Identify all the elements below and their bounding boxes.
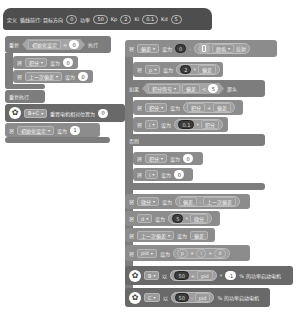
integral-sign-dropdown[interactable]: 积分符号▾: [148, 84, 180, 93]
motor-port-dropdown[interactable]: B+C▾: [24, 109, 47, 118]
param-power-label: 功率: [80, 16, 90, 23]
var-init-setting[interactable]: 初始化设定: [28, 40, 61, 49]
var-last-error-dropdown[interactable]: 上一次偏差▾: [25, 72, 62, 81]
set-integral-block[interactable]: 将 积分▾ 设为 0: [13, 56, 78, 69]
error-var-reporter[interactable]: 偏差: [198, 65, 216, 74]
condition[interactable]: 初始化设定 = 0: [22, 39, 85, 50]
param-ki-label: Ki: [134, 16, 139, 22]
if-footer: [125, 183, 265, 190]
repeat-until-block[interactable]: 重复 初始化设定 = 0 执行: [5, 36, 111, 53]
param-kp[interactable]: 2: [120, 15, 131, 24]
set-p-block[interactable]: 将 p▾ 设为 2 * 偏差: [133, 62, 223, 77]
sum-reporter[interactable]: p + i + d: [173, 248, 230, 259]
set-d-block[interactable]: 将 d▾ 设为 5 * 微分: [125, 211, 220, 226]
var-error-dropdown[interactable]: 偏差▾: [137, 44, 159, 53]
var-p-dropdown[interactable]: p▾: [145, 65, 160, 74]
param-ki[interactable]: 0.1: [142, 15, 158, 24]
define-name: 循线前行: 目标方向: [20, 16, 63, 23]
param-kd[interactable]: 5: [171, 15, 182, 24]
execute-label: 执行: [88, 41, 98, 48]
start-motor-b-block[interactable]: ✿ B▾ 以 50 + pid * -1 % 的功率启动电机: [125, 266, 293, 285]
set-last-error-to-error-block[interactable]: 将 上一次偏差▾ 设为 偏差: [125, 228, 215, 242]
set-init-setting-block[interactable]: 将 初始化设定▾ 设为 1: [5, 123, 100, 137]
multiply-reporter[interactable]: 2 * 偏差: [176, 64, 220, 75]
var-init-setting-dropdown[interactable]: 初始化设定▾: [17, 126, 54, 135]
param-kp-label: Kp: [111, 16, 117, 22]
reset-integral-block[interactable]: 将 积分▾ 设为 0: [133, 152, 203, 165]
param-kd-label: Kd: [161, 16, 167, 22]
set-error-block[interactable]: 将 偏差▾ 设为 0 - 颜色▾ 反射: [125, 40, 277, 57]
subtract-reporter[interactable]: 偏差 - 上一次偏差: [175, 196, 240, 207]
multiply-reporter[interactable]: 5 * 微分: [168, 213, 212, 224]
start-motor-c-block[interactable]: ✿ C▾ 以 50 - pid % 的功率启动电机: [125, 288, 270, 307]
if-condition[interactable]: 积分符号▾ 偏差 < 5: [142, 83, 224, 94]
if-block[interactable]: 如果 积分符号▾ 偏差 < 5 那么: [125, 80, 265, 97]
motor-c-port-dropdown[interactable]: C▾: [144, 293, 160, 302]
param-direction[interactable]: 0: [66, 15, 77, 24]
repeat-until-body: [5, 53, 13, 86]
set-pid-block[interactable]: 将 pid▾ 设为 p + i + d: [125, 245, 250, 261]
add-reporter[interactable]: 积分 + 偏差: [183, 102, 235, 113]
reset-i-block[interactable]: 将 i▾ 设为 0: [133, 168, 193, 181]
forever-block[interactable]: 重复执行: [5, 90, 45, 103]
multiply-reporter[interactable]: 0.1 * 积分: [174, 119, 222, 130]
repeat-until-footer: [5, 84, 45, 89]
repeat-keyword: 重复: [9, 41, 19, 48]
set-last-error-block[interactable]: 将 上一次偏差▾ 设为 0: [13, 70, 93, 83]
else-label-block: 否则: [125, 134, 265, 146]
motor-b-port-dropdown[interactable]: B▾: [144, 271, 159, 280]
reset-motor-block[interactable]: ✿ B+C▾ 重置电机相对位置为 0: [5, 104, 125, 122]
define-keyword: 定义: [7, 16, 17, 23]
sensor-mode-dropdown[interactable]: 颜色▾: [212, 44, 234, 53]
param-power[interactable]: 50: [93, 15, 107, 24]
power-expression[interactable]: 50 - pid: [171, 292, 215, 303]
var-integral-dropdown[interactable]: 积分▾: [25, 58, 47, 67]
motor-icon: ✿: [129, 270, 141, 282]
define-block[interactable]: 定义 循线前行: 目标方向 0 功率 50 Kp 2 Ki 0.1 Kd 5: [3, 8, 212, 30]
motor-icon: ✿: [129, 292, 141, 304]
set-derivative-block[interactable]: 将 微分▾ 设为 偏差 - 上一次偏差: [125, 194, 250, 209]
set-i-block[interactable]: 将 i▾ 设为 0.1 * 积分: [133, 117, 228, 132]
color-sensor-reporter[interactable]: 颜色▾ 反射: [194, 43, 250, 54]
motor-icon: ✿: [9, 107, 21, 119]
sensor-icon: [198, 43, 210, 54]
condition-value[interactable]: 0: [69, 40, 79, 49]
forever-label: 重复执行: [9, 93, 29, 100]
power-expression[interactable]: 50 + pid: [170, 270, 216, 281]
set-integral-sum-block[interactable]: 将 积分▾ 设为 积分 + 偏差: [133, 100, 243, 115]
forever-footer: [5, 137, 110, 143]
